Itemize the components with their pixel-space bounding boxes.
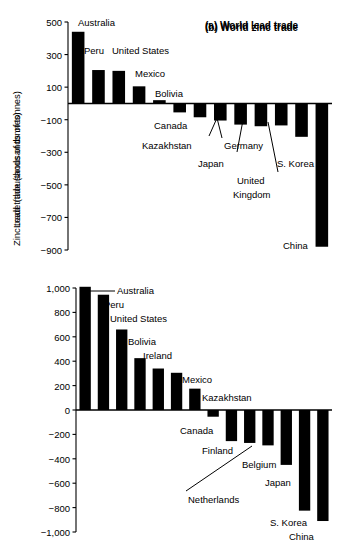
y-axis-tick-label: −700 [0,212,62,223]
bar [72,32,85,104]
bar [173,103,186,112]
bar [299,410,310,511]
bar [234,103,247,124]
bar-label: Canada [154,120,187,131]
chart-panel-lead-trade [0,0,344,270]
bar-label: United States [112,45,169,56]
y-axis-tick-label: 100 [0,82,62,93]
bar [92,70,105,103]
y-axis-tick-label: −600 [0,478,70,489]
bar-label: China [289,531,314,542]
bar [262,410,273,445]
y-axis-tick-label: −300 [0,147,62,158]
bar-label: Germany [224,140,263,151]
bar-label: Australia [78,17,115,28]
bar-label: China [283,240,308,251]
bar [153,369,164,410]
bar-label: Australia [117,285,154,296]
y-axis-tick-label: 400 [0,356,70,367]
bar-label: S. Korea [270,517,307,528]
y-axis-tick-label: −100 [0,114,62,125]
bar-label: Finland [202,445,233,456]
bar [275,103,288,125]
bar-label: Bolivia [128,336,156,347]
bar-label: Canada [180,425,213,436]
bar-label: Japan [265,477,291,488]
y-axis-tick-label: −1,000 [0,527,70,538]
y-axis-tick-label: 0 [0,405,70,416]
bar [281,410,292,465]
bar [316,103,329,246]
y-axis-tick-label: 200 [0,380,70,391]
bar-label: Peru [104,299,124,310]
bar [226,410,237,441]
y-axis-tick-label: 1,000 [0,283,70,294]
panel-title-zinc: (b) World zinc trade [205,22,298,33]
y-axis-tick-label: 300 [0,49,62,60]
bar-label: Ireland [143,350,172,361]
bar-label: Mexico [135,68,165,79]
bar-label: United States [110,313,167,324]
annotation-leader-line [209,118,217,136]
bar [134,358,145,410]
y-axis-tick-label: −900 [0,245,62,256]
bar-label: Mexico [182,374,212,385]
bar [171,373,182,410]
bar [189,389,200,410]
y-axis-tick-label: 500 [0,17,62,28]
bar-label: Belgium [242,459,276,470]
bar [112,71,125,104]
annotation-leader-line [217,118,222,138]
bar-label: S. Korea [277,158,314,169]
bar [133,86,146,103]
y-axis-tick-label: −400 [0,453,70,464]
bar-label: Peru [84,45,104,56]
bar [244,410,255,443]
bar [295,103,308,136]
y-axis-tick-label: −800 [0,502,70,513]
bar [98,295,109,410]
bar [194,103,207,117]
y-axis-tick-label: 600 [0,331,70,342]
lead-zinc-trade-figure: Lead trade (thousands of tonnes) (a) Wor… [0,0,344,550]
bar [214,103,227,120]
y-axis-tick-label: −200 [0,429,70,440]
bar [255,103,268,126]
bar [317,410,328,521]
y-axis-tick-label: −500 [0,179,62,190]
bar-label: Netherlands [188,494,239,505]
bar [79,287,90,410]
bar-label: Kingdom [233,189,271,200]
bar-label: Japan [198,158,224,169]
bar-label: Kazakhstan [202,392,252,403]
bar [116,329,127,410]
y-axis-tick-label: 800 [0,307,70,318]
lead-trade-plot [0,0,344,270]
bar-label: Kazakhstan [142,140,192,151]
bar-label: United [237,175,264,186]
bar [207,410,218,417]
bar-label: Bolivia [155,88,183,99]
